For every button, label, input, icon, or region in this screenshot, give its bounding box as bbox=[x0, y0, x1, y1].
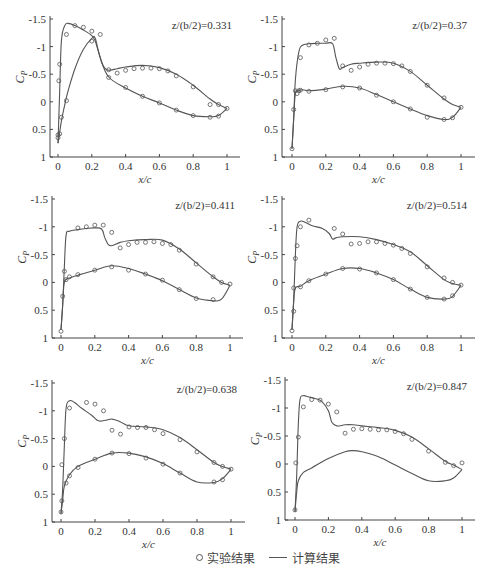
y-tick-label: -0.5 bbox=[264, 430, 282, 442]
x-tick-label: 0.6 bbox=[388, 523, 402, 535]
x-tick-label: 0.4 bbox=[353, 341, 367, 353]
experiment-point bbox=[301, 405, 305, 409]
panel-z-0847: -1.5-1-0.500.5100.20.40.60.81x/cCPz/(b/2… bbox=[248, 374, 475, 548]
panel-title: z/(b/2)=0.514 bbox=[407, 199, 468, 212]
experiment-point bbox=[98, 32, 102, 36]
panel-z-0514: -1.5-1-0.500.5100.20.40.60.81x/cCPz/(b/2… bbox=[245, 193, 475, 366]
experiment-point bbox=[307, 218, 311, 222]
experiment-point bbox=[161, 432, 165, 436]
experiment-point bbox=[160, 241, 164, 245]
experiment-point bbox=[110, 428, 114, 432]
x-tick-label: 0 bbox=[58, 525, 64, 537]
x-tick-label: 1 bbox=[227, 341, 233, 353]
experiment-point bbox=[101, 223, 105, 227]
experiment-point bbox=[152, 240, 156, 244]
experiment-point bbox=[335, 410, 339, 414]
x-tick-label: 1 bbox=[458, 341, 464, 353]
y-tick-label: 1 bbox=[43, 516, 49, 528]
x-tick-label: 0.6 bbox=[387, 341, 401, 353]
y-tick-label: 0 bbox=[276, 458, 282, 470]
x-tick-label: 0.8 bbox=[420, 341, 434, 353]
experiment-point bbox=[110, 230, 114, 234]
experiment-point bbox=[324, 38, 328, 42]
y-tick-label: 1 bbox=[43, 332, 49, 344]
x-tick-label: 0.2 bbox=[85, 160, 99, 172]
experiment-point bbox=[332, 226, 336, 230]
y-tick-label: 0.5 bbox=[34, 488, 48, 500]
experiment-point bbox=[310, 398, 314, 402]
panel-title: z/(b/2)=0.37 bbox=[412, 19, 467, 32]
experiment-point bbox=[102, 409, 106, 413]
experiment-point bbox=[132, 67, 136, 71]
computed-curve bbox=[295, 451, 462, 512]
computed-curve bbox=[58, 36, 227, 143]
x-tick-label: 1 bbox=[228, 525, 234, 537]
computed-curve bbox=[292, 43, 461, 149]
experiment-point bbox=[326, 402, 330, 406]
x-tick-label: 0 bbox=[289, 160, 295, 172]
experiment-point bbox=[124, 68, 128, 72]
open-circle-marker-icon bbox=[196, 554, 203, 561]
experiment-point bbox=[343, 431, 347, 435]
experiment-point bbox=[149, 66, 153, 70]
y-tick-label: -1.5 bbox=[31, 193, 49, 205]
x-tick-label: 0.4 bbox=[119, 160, 133, 172]
experiment-point bbox=[90, 39, 94, 43]
experiment-point bbox=[332, 36, 336, 40]
y-tick-label: -1.5 bbox=[29, 13, 47, 25]
y-tick-label: -1 bbox=[39, 221, 48, 233]
experiment-point bbox=[366, 240, 370, 244]
y-tick-label: -1.5 bbox=[261, 13, 279, 25]
y-axis-label: CP bbox=[13, 70, 29, 83]
x-tick-label: 0.2 bbox=[322, 523, 336, 535]
experiment-point bbox=[377, 428, 381, 432]
x-tick-label: 0.2 bbox=[88, 341, 102, 353]
x-tick-label: 0.6 bbox=[387, 160, 401, 172]
experiment-point bbox=[118, 246, 122, 250]
legend: 实验结果 计算结果 bbox=[196, 549, 340, 566]
x-axis-label: x/c bbox=[141, 538, 155, 550]
panel-title: z/(b/2)=0.638 bbox=[177, 383, 238, 396]
experiment-point bbox=[81, 25, 85, 29]
x-tick-label: 0.2 bbox=[88, 525, 102, 537]
solid-line-icon bbox=[269, 557, 287, 558]
experiment-point bbox=[349, 68, 353, 72]
x-tick-label: 0.8 bbox=[420, 160, 434, 172]
y-tick-label: 1 bbox=[273, 332, 279, 344]
experiment-point bbox=[93, 402, 97, 406]
panel-title: z/(b/2)=0.411 bbox=[175, 199, 235, 212]
y-axis-label: CP bbox=[15, 251, 31, 264]
x-tick-label: 0.2 bbox=[319, 341, 333, 353]
experiment-point bbox=[368, 427, 372, 431]
y-tick-label: 0.5 bbox=[34, 304, 48, 316]
x-tick-label: 0.4 bbox=[355, 523, 369, 535]
experiment-point bbox=[351, 427, 355, 431]
y-tick-label: 0.5 bbox=[264, 123, 278, 135]
experiment-point bbox=[427, 449, 431, 453]
experiment-point bbox=[358, 241, 362, 245]
x-tick-label: 0.8 bbox=[190, 525, 204, 537]
experiment-point bbox=[90, 29, 94, 33]
y-tick-label: -0.5 bbox=[29, 68, 47, 80]
panel-z-0411: -1.5-1-0.500.5100.20.40.60.81x/cCPz/(b/2… bbox=[15, 193, 243, 366]
experiment-point bbox=[375, 240, 379, 244]
experiment-point bbox=[115, 71, 119, 75]
y-axis-label: CP bbox=[15, 435, 31, 448]
x-axis-label: x/c bbox=[373, 536, 387, 548]
y-tick-label: -0.5 bbox=[31, 249, 49, 261]
x-tick-label: 0.6 bbox=[156, 341, 170, 353]
experiment-point bbox=[127, 243, 131, 247]
x-tick-label: 1 bbox=[459, 523, 465, 535]
x-axis-label: x/c bbox=[371, 173, 385, 185]
experiment-point bbox=[144, 240, 148, 244]
computed-curve bbox=[295, 396, 462, 512]
experiment-point bbox=[195, 450, 199, 454]
y-tick-label: -0.5 bbox=[31, 433, 49, 445]
experiment-point bbox=[141, 66, 145, 70]
x-tick-label: 0.6 bbox=[156, 525, 170, 537]
y-tick-label: 1 bbox=[276, 514, 282, 526]
panel-z-037: -1.5-1-0.500.5100.20.40.60.81x/cCPz/(b/2… bbox=[245, 13, 475, 185]
panel-title: z/(b/2)=0.847 bbox=[407, 380, 468, 393]
x-tick-label: 0.4 bbox=[122, 525, 136, 537]
y-tick-label: -1.5 bbox=[31, 377, 49, 389]
